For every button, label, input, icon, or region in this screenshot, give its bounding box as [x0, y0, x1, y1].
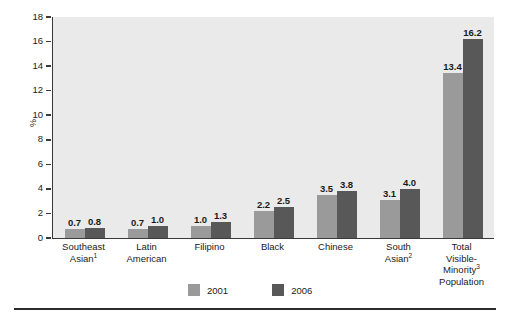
bar-value-label: 1.3 — [214, 210, 227, 221]
legend-label: 2001 — [207, 285, 228, 296]
chart-legend: 20012006 — [188, 283, 356, 297]
y-axis-tick-mark — [46, 114, 51, 116]
bar-2001-4[interactable]: 3.5 — [317, 195, 337, 238]
x-axis-label-5: SouthAsian2 — [367, 241, 430, 264]
bar-group: 13.416.2 — [431, 17, 494, 238]
y-axis-tick-label: 0 — [38, 232, 43, 244]
bar-value-label: 2.2 — [257, 199, 270, 210]
y-axis-tick-mark — [46, 90, 51, 92]
legend-item-2006[interactable]: 2006 — [272, 284, 312, 296]
bar-value-label: 4.0 — [403, 177, 416, 188]
bar-2001-2[interactable]: 1.0 — [191, 226, 211, 238]
legend-label: 2006 — [291, 285, 312, 296]
bar-value-label: 0.8 — [88, 216, 101, 227]
y-axis-tick-label: 14 — [32, 60, 43, 72]
bar-value-label: 16.2 — [463, 27, 482, 38]
bar-value-label: 2.5 — [277, 195, 290, 206]
y-axis-tick-mark — [46, 237, 51, 239]
x-axis-label-0: SoutheastAsian1 — [52, 241, 115, 264]
plot-area: 024681012141618 0.70.80.71.01.01.32.22.5… — [52, 17, 494, 239]
bar-2006-6[interactable]: 16.2 — [463, 39, 483, 238]
bar-2006-1[interactable]: 1.0 — [148, 226, 168, 238]
bar-2001-0[interactable]: 0.7 — [65, 229, 85, 238]
bar-group: 3.14.0 — [368, 17, 431, 238]
y-axis-tick-label: 12 — [32, 84, 43, 96]
y-axis-tick-mark — [46, 16, 51, 18]
bar-2006-5[interactable]: 4.0 — [400, 189, 420, 238]
bar-value-label: 3.8 — [340, 179, 353, 190]
bar-value-label: 1.0 — [151, 214, 164, 225]
bar-group: 3.53.8 — [305, 17, 368, 238]
y-axis-tick-mark — [46, 164, 51, 166]
bar-group: 0.71.0 — [116, 17, 179, 238]
y-axis-tick-label: 6 — [38, 158, 43, 170]
y-axis-tick-label: 18 — [32, 11, 43, 23]
bar-2001-3[interactable]: 2.2 — [254, 211, 274, 238]
bar-2001-1[interactable]: 0.7 — [128, 229, 148, 238]
bar-group: 2.22.5 — [242, 17, 305, 238]
y-axis-tick-label: 4 — [38, 182, 43, 194]
y-axis-tick-mark — [46, 41, 51, 43]
bar-value-label: 3.1 — [383, 188, 396, 199]
bar-group: 1.01.3 — [179, 17, 242, 238]
bar-value-label: 1.0 — [194, 214, 207, 225]
y-axis-tick-label: 2 — [38, 207, 43, 219]
y-axis-tick-label: 8 — [38, 133, 43, 145]
y-axis-tick-mark — [46, 65, 51, 67]
bar-2001-5[interactable]: 3.1 — [380, 200, 400, 238]
x-axis-label-4: Chinese — [304, 241, 367, 253]
bar-group: 0.70.8 — [53, 17, 116, 238]
bar-2006-0[interactable]: 0.8 — [85, 228, 105, 238]
x-axis-label-3: Black — [241, 241, 304, 253]
y-axis-tick-label: 16 — [32, 35, 43, 47]
bar-chart-figure: % 024681012141618 0.70.80.71.01.01.32.22… — [0, 0, 509, 323]
bottom-divider-rule — [14, 308, 496, 310]
y-axis-tick-mark — [46, 139, 51, 141]
bar-value-label: 0.7 — [131, 217, 144, 228]
y-axis-tick-mark — [46, 188, 51, 190]
legend-swatch-2001 — [188, 284, 200, 296]
legend-swatch-2006 — [272, 284, 284, 296]
legend-item-2001[interactable]: 2001 — [188, 284, 228, 296]
y-axis-tick-label: 10 — [32, 109, 43, 121]
bar-2006-2[interactable]: 1.3 — [211, 222, 231, 238]
x-axis-label-1: LatinAmerican — [115, 241, 178, 264]
bar-value-label: 13.4 — [443, 61, 462, 72]
x-axis-label-2: Filipino — [178, 241, 241, 253]
bars-layer: 0.70.80.71.01.01.32.22.53.53.83.14.013.4… — [53, 17, 494, 238]
bar-2006-4[interactable]: 3.8 — [337, 191, 357, 238]
x-axis-label-6: TotalVisible-Minority3Population — [430, 241, 493, 287]
bar-2006-3[interactable]: 2.5 — [274, 207, 294, 238]
bar-value-label: 0.7 — [68, 217, 81, 228]
y-axis-tick-mark — [46, 213, 51, 215]
bar-2001-6[interactable]: 13.4 — [443, 73, 463, 238]
bar-value-label: 3.5 — [320, 183, 333, 194]
